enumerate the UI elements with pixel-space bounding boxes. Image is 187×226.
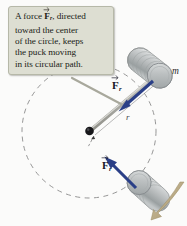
callout-line-5: in its circular path. (15, 59, 83, 69)
explanation-callout-box: A force Fr, directed toward the center o… (8, 6, 114, 75)
force-arrow-top (119, 81, 154, 112)
callout-text: A force Fr, directed toward the center o… (15, 11, 108, 70)
mass-label: m (172, 66, 179, 76)
circular-motion-figure: A force Fr, directed toward the center o… (0, 0, 187, 226)
force-label-top: Fr (112, 79, 122, 92)
force-label-top-subscript: r (119, 85, 122, 92)
callout-line-2: toward the center (15, 25, 78, 35)
force-label-bottom-vector: F (102, 159, 109, 171)
force-label-top-vector: F (112, 79, 119, 91)
callout-line-1-post: , directed (52, 11, 86, 21)
callout-line-3: of the circle, keeps (15, 36, 83, 46)
force-label-bottom-subscript: r (109, 165, 112, 172)
callout-line-4: the puck moving (15, 47, 76, 57)
angle-tick-arrow (91, 136, 95, 140)
radius-label: r (126, 112, 130, 122)
callout-line-1-pre: A force (15, 11, 44, 21)
center-pivot-dot (85, 127, 94, 136)
center-pivot-highlight (87, 128, 90, 131)
force-vector-symbol-inline: F (44, 11, 50, 22)
puck-bottom (122, 166, 174, 217)
force-label-bottom-letter: F (102, 159, 109, 171)
radius-line (95, 82, 158, 135)
force-label-bottom: Fr (102, 159, 112, 172)
force-vector-letter: F (44, 11, 50, 21)
force-label-top-letter: F (112, 79, 119, 91)
